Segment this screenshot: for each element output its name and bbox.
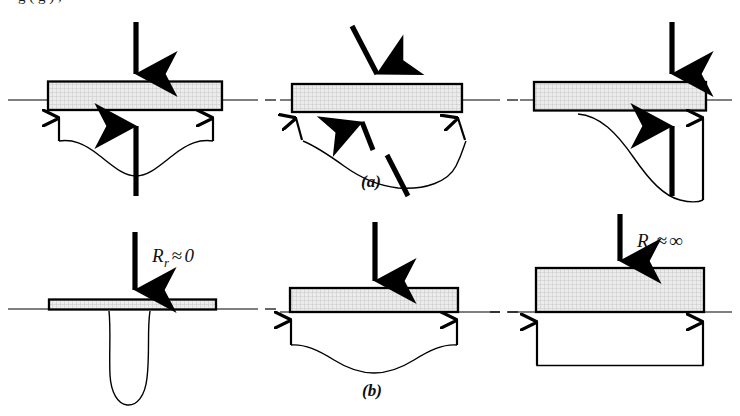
pressure-distribution-curve — [303, 141, 466, 188]
rigidity-label-infinity: Rr≈∞ — [637, 230, 684, 256]
figure-contact-pressure-distributions: g ( g ) , — [0, 0, 740, 416]
rigidity-subscript: r — [649, 240, 655, 255]
row-label-a: (a) — [361, 172, 381, 192]
resultant-reaction-arrow-inclined — [387, 155, 408, 196]
edge-reaction-arrow-right — [458, 118, 465, 140]
rigidity-symbol: R — [152, 245, 164, 266]
panel-edge-load-one-sided-reaction — [520, 22, 732, 202]
approx-equal-icon: ≈ — [655, 230, 670, 251]
pressure-distribution-curve-spike — [109, 311, 150, 405]
rigidity-label-zero: Rr≈0 — [152, 245, 195, 271]
footing-block — [290, 288, 458, 312]
diagram-canvas — [0, 0, 740, 416]
edge-reaction-arrow-left — [296, 118, 302, 140]
rigidity-subscript: r — [164, 255, 170, 270]
pressure-distribution-curve — [578, 114, 703, 202]
footing-block-thin — [49, 300, 216, 310]
approx-equal-icon: ≈ — [170, 245, 185, 266]
panel-intermediate-footing-dished-reaction — [280, 222, 518, 373]
row-label-b: (b) — [362, 381, 382, 401]
footing-block — [292, 84, 462, 112]
center-reaction-arrow — [362, 122, 373, 150]
panel-inclined-eccentric-load-asymmetric-reaction — [280, 26, 518, 196]
pressure-distribution-curve-uniform — [537, 365, 703, 366]
panel-flexible-footing-spike-reaction — [8, 232, 276, 405]
applied-load-arrow-inclined — [352, 26, 377, 74]
footing-block — [48, 82, 222, 111]
footing-block — [534, 82, 706, 111]
footing-block-thick — [536, 268, 704, 312]
rigidity-symbol: R — [637, 230, 649, 251]
rigidity-value: ∞ — [670, 230, 684, 251]
rigidity-value: 0 — [185, 245, 195, 266]
panel-rigid-footing-uniform-reaction — [490, 214, 732, 366]
pressure-distribution-curve — [291, 345, 457, 373]
panel-concentric-load-dished-reaction — [8, 22, 276, 196]
